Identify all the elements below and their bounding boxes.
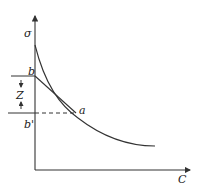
sigma-c-diagram: σ C b Z b' a: [0, 0, 198, 191]
tangent-line: [35, 76, 76, 113]
label-b: b: [28, 65, 35, 78]
x-axis-label: C: [178, 173, 187, 186]
y-axis-label: σ: [24, 27, 32, 40]
label-z: Z: [15, 89, 24, 102]
label-a: a: [79, 104, 86, 117]
label-b-prime: b': [24, 118, 34, 131]
sigma-curve: [35, 45, 155, 146]
